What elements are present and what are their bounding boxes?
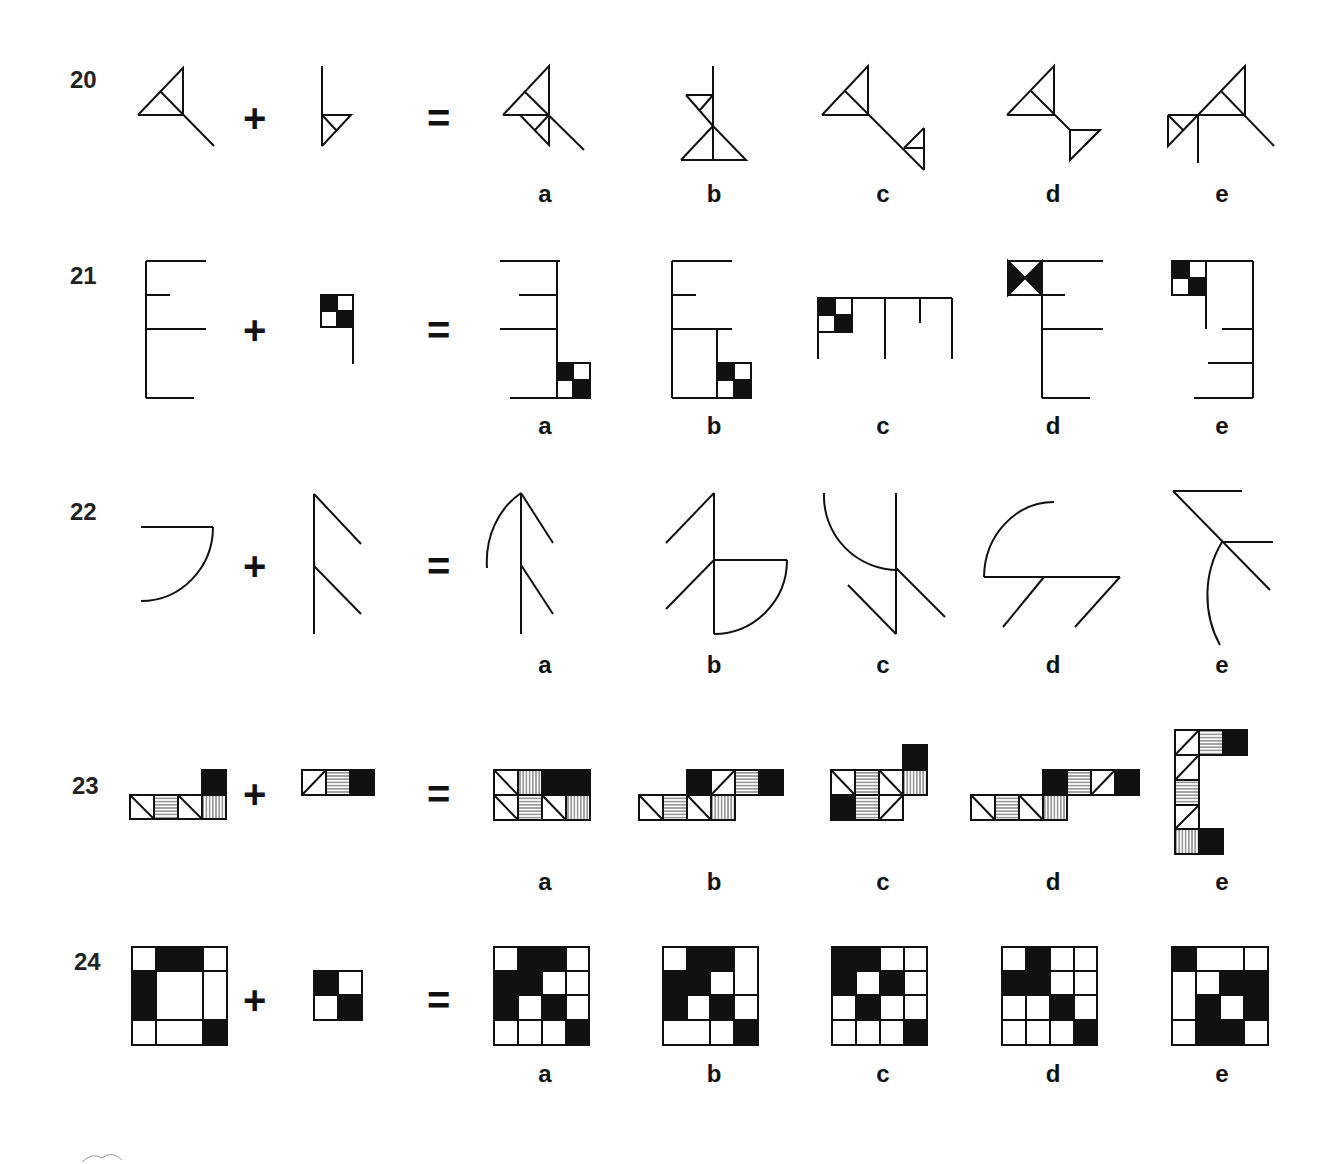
q24-label-e: e [1207, 1060, 1237, 1088]
q20-label-c: c [868, 180, 898, 208]
q21-option-a[interactable] [505, 255, 595, 405]
q24-option-e[interactable] [1167, 942, 1272, 1050]
equals-sign: = [427, 774, 450, 814]
q21-option-d[interactable] [1002, 255, 1112, 405]
q24-figure-1 [127, 942, 232, 1050]
q22-option-b[interactable] [662, 488, 797, 638]
q21-option-c[interactable] [812, 290, 957, 365]
q24-label-b: b [699, 1060, 729, 1088]
q23-figure-2 [297, 765, 377, 800]
q23-label-e: e [1207, 868, 1237, 896]
q22-figure-2 [308, 490, 368, 640]
plus-sign: + [243, 546, 266, 586]
q20-option-b[interactable] [675, 60, 755, 165]
q23-option-b[interactable] [634, 765, 789, 825]
q24-option-b[interactable] [658, 942, 763, 1050]
q24-label-a: a [530, 1060, 560, 1088]
q24-label-d: d [1038, 1060, 1068, 1088]
q22-label-b: b [699, 651, 729, 679]
q20-option-c[interactable] [815, 60, 930, 175]
q23-option-a[interactable] [490, 765, 595, 825]
question-number-21: 21 [70, 262, 97, 290]
question-number-22: 22 [70, 498, 97, 526]
equals-sign: = [427, 980, 450, 1020]
q22-option-d[interactable] [978, 495, 1128, 635]
q23-label-b: b [699, 868, 729, 896]
q20-figure-1 [130, 60, 220, 150]
equals-sign: = [427, 310, 450, 350]
q24-option-c[interactable] [827, 942, 932, 1050]
q21-option-b[interactable] [665, 255, 760, 405]
plus-sign: + [243, 980, 266, 1020]
q22-label-a: a [530, 651, 560, 679]
q20-option-a[interactable] [495, 60, 590, 160]
q21-figure-1 [140, 255, 215, 405]
q22-label-e: e [1207, 651, 1237, 679]
q24-figure-2 [308, 966, 366, 1024]
q20-option-d[interactable] [1000, 60, 1110, 165]
q20-label-a: a [530, 180, 560, 208]
q23-label-d: d [1038, 868, 1068, 896]
q21-label-e: e [1207, 412, 1237, 440]
q24-option-a[interactable] [490, 942, 595, 1050]
q23-label-a: a [530, 868, 560, 896]
q20-figure-2 [315, 60, 360, 150]
plus-sign: + [243, 98, 266, 138]
equals-sign: = [427, 98, 450, 138]
page-curl-mark [80, 1150, 140, 1164]
q21-figure-2 [315, 290, 360, 370]
q20-label-e: e [1207, 180, 1237, 208]
plus-sign: + [243, 774, 266, 814]
q22-option-e[interactable] [1168, 485, 1280, 650]
q22-option-c[interactable] [818, 488, 950, 638]
question-number-24: 24 [74, 948, 101, 976]
q24-option-d[interactable] [997, 942, 1102, 1050]
q23-option-d[interactable] [965, 765, 1145, 825]
q22-option-a[interactable] [485, 488, 600, 638]
plus-sign: + [243, 310, 266, 350]
q20-option-e[interactable] [1160, 60, 1280, 170]
q22-figure-1 [135, 520, 220, 605]
question-number-20: 20 [70, 66, 97, 94]
q23-option-c[interactable] [826, 740, 936, 825]
q24-label-c: c [868, 1060, 898, 1088]
q21-label-a: a [530, 412, 560, 440]
q21-label-b: b [699, 412, 729, 440]
equals-sign: = [427, 546, 450, 586]
q21-label-d: d [1038, 412, 1068, 440]
q23-option-e[interactable] [1168, 725, 1253, 860]
q22-label-c: c [868, 651, 898, 679]
q23-label-c: c [868, 868, 898, 896]
q22-label-d: d [1038, 651, 1068, 679]
q20-label-d: d [1038, 180, 1068, 208]
q21-option-e[interactable] [1165, 255, 1260, 405]
q23-figure-1 [125, 765, 230, 825]
q20-label-b: b [699, 180, 729, 208]
question-number-23: 23 [72, 772, 99, 800]
q21-label-c: c [868, 412, 898, 440]
